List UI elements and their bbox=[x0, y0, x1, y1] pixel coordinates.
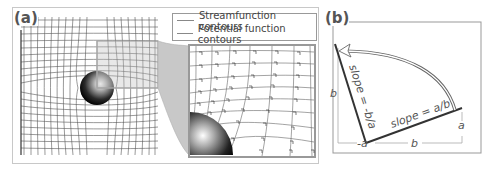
slope-right-label: slope = a/b bbox=[389, 97, 453, 131]
dim-right-a: a bbox=[458, 119, 465, 132]
slope-left-label: slope = -b/a bbox=[346, 63, 379, 131]
dim-left-b: b bbox=[330, 87, 337, 100]
panel-b-labels: slope = -b/a slope = a/b b a -a b bbox=[0, 0, 487, 176]
dim-bottom-neg-a: -a bbox=[357, 137, 368, 150]
dim-bottom-b: b bbox=[411, 137, 418, 150]
